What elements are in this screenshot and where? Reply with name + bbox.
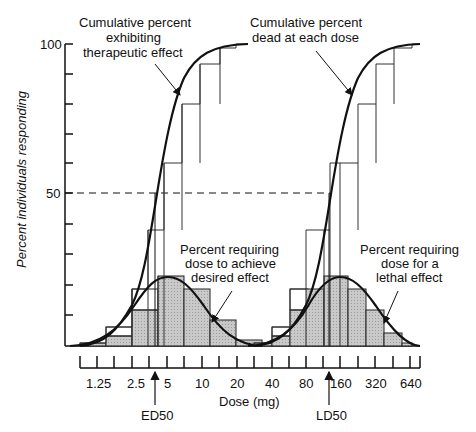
annotation-desired-arrow xyxy=(212,291,232,322)
x-tick-20: 20 xyxy=(230,376,244,391)
annotation-lethal-2: dose for a xyxy=(381,256,440,271)
annotation-desired-2: dose to achieve xyxy=(185,256,276,271)
annotation-desired-3: desired effect xyxy=(191,270,269,285)
annotation-desired-1: Percent requiring xyxy=(180,242,279,257)
ed50-label: ED50 xyxy=(141,408,174,423)
x-tick-2.5: 2.5 xyxy=(127,376,145,391)
annotation-dead-arrow xyxy=(316,51,352,95)
x-tick-40: 40 xyxy=(265,376,279,391)
x-tick-5: 5 xyxy=(164,376,171,391)
y-tick-100: 100 xyxy=(40,37,62,52)
x-axis-label: Dose (mg) xyxy=(219,394,280,409)
annotation-therapeutic-arrow xyxy=(155,64,180,95)
annotation-therapeutic-3: therapeutic effect xyxy=(83,45,183,60)
x-axis xyxy=(80,356,420,368)
y-axis-label: Percent individuals responding xyxy=(14,90,29,268)
annotation-lethal-1: Percent requiring xyxy=(360,242,459,257)
y-tick-50: 50 xyxy=(46,186,60,201)
annotation-therapeutic-1: Cumulative percent xyxy=(79,15,191,30)
y-axis xyxy=(65,44,73,346)
x-tick-1.25: 1.25 xyxy=(86,376,111,391)
annotation-dead-1: Cumulative percent xyxy=(250,15,362,30)
x-tick-160: 160 xyxy=(330,376,352,391)
ld50-label: LD50 xyxy=(316,408,347,423)
x-tick-80: 80 xyxy=(299,376,313,391)
dose-response-chart: 100 50 Percent individuals responding xyxy=(0,0,476,432)
annotation-dead-2: dead at each dose xyxy=(252,30,359,45)
x-tick-320: 320 xyxy=(365,376,387,391)
annotation-lethal-arrow xyxy=(384,291,398,323)
annotation-lethal-3: lethal effect xyxy=(376,270,443,285)
lethal-histogram xyxy=(254,276,412,346)
x-tick-640: 640 xyxy=(400,376,422,391)
annotation-therapeutic-2: exhibiting xyxy=(106,30,161,45)
x-tick-10: 10 xyxy=(195,376,209,391)
